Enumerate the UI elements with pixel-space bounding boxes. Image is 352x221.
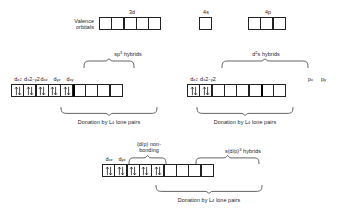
electron-pair-icon [14,86,22,96]
row2-left-boxes [11,84,123,97]
d2s-hybrids-label: d2s hybrids [228,50,304,57]
orbital-box-filled[interactable] [60,84,73,97]
donation-caption-row2-left: Donation by L4 lone pairs [56,119,162,127]
donation-caption-row3: Donation by L4 lone pairs [152,197,266,205]
donation-caption-suffix: lone pairs [114,119,140,125]
sdp3-hybrids-label: s(d/p)3 hybrids [208,147,278,154]
valence-4p-boxes [248,17,286,30]
orbital-label-dz2-right: dz2 [187,76,201,84]
orbital-box-filled[interactable] [139,164,152,177]
donation-caption-suffix: lone pairs [214,197,240,203]
electron-pair-icon [141,166,149,176]
orbital-box-hybrid[interactable] [188,164,201,177]
orbital-box-hybrid[interactable] [73,84,86,97]
orbital-label-dx2y2-right: dx2−y2 [200,76,216,84]
orbital-box[interactable] [260,17,273,30]
orbital-label-dyz: dyz [50,76,64,84]
orbital-box-filled[interactable] [127,164,140,177]
orbital-box-hybrid[interactable] [249,84,262,97]
orbital-box-filled[interactable] [199,84,212,97]
set-label-4s: 4s [199,9,213,15]
nonbonding-label: (d/p) non- bonding [127,141,171,154]
set-label-4p: 4p [248,9,288,15]
electron-pair-icon [105,166,113,176]
orbital-label-dyz-row3: dyz [115,156,129,164]
sdp3-hybrids-brace [195,155,261,164]
donation-caption-row2-right: Donation by L4 lone pairs [192,119,298,127]
orbital-label-dxy: dxy [63,76,77,84]
orbital-box-p[interactable] [261,84,274,97]
donation-brace-row2-left [60,107,158,116]
orbital-diagram-figure: Valence orbitals 3d 4s 4p sp3 hybrids dz… [0,0,352,221]
sdp3-hybrids-base: s(d/p) [225,148,239,154]
donation-brace-row2-right [196,107,294,116]
orbital-box[interactable] [136,17,149,30]
orbital-box-filled[interactable] [11,84,24,97]
nonbonding-label-line2: bonding [139,147,159,153]
row2-right-boxes [187,84,286,97]
orbital-label-px: px [304,76,317,84]
valence-3d-boxes [99,17,161,30]
orbital-box[interactable] [124,17,137,30]
electron-pair-icon [154,166,162,176]
electron-pair-icon [117,166,125,176]
orbital-box-hybrid[interactable] [110,84,123,97]
sp3-hybrids-label: sp3 hybrids [88,50,168,57]
orbital-box[interactable] [248,17,261,30]
orbital-box-hybrid[interactable] [212,84,225,97]
row3-boxes [102,164,214,177]
electron-pair-icon [26,86,34,96]
electron-pair-icon [50,86,58,96]
orbital-box-p[interactable] [273,84,286,97]
orbital-box-hybrid[interactable] [164,164,177,177]
orbital-box-filled[interactable] [187,84,200,97]
donation-caption-base: Donation by L [178,197,212,203]
electron-pair-icon [190,86,198,96]
orbital-box-filled[interactable] [36,84,49,97]
orbital-box-hybrid[interactable] [176,164,189,177]
nonbonding-brace [128,155,168,164]
donation-caption-base: Donation by L [214,119,248,125]
orbital-box-filled[interactable] [48,84,61,97]
orbital-box-filled[interactable] [114,164,127,177]
sp3-hybrids-suffix: hybrids [122,51,142,57]
set-label-3d: 3d [99,9,165,15]
orbital-label-py: py [317,76,330,84]
orbital-box-filled[interactable] [102,164,115,177]
donation-brace-row3 [155,185,263,194]
orbital-box[interactable] [199,17,212,30]
orbital-box[interactable] [99,17,112,30]
orbital-box-hybrid[interactable] [224,84,237,97]
electron-pair-icon [129,166,137,176]
electron-pair-icon [38,86,46,96]
d2s-hybrids-suffix: s hybrids [258,51,280,57]
orbital-label-dxz: dxz [37,76,51,84]
d2s-hybrids-brace [221,58,309,68]
donation-caption-base: Donation by L [78,119,112,125]
orbital-box-hybrid[interactable] [97,84,110,97]
sdp3-hybrids-suffix: hybrids [242,148,262,154]
orbital-box[interactable] [111,17,124,30]
electron-pair-icon [63,86,71,96]
orbital-box[interactable] [273,17,286,30]
orbital-box[interactable] [148,17,161,30]
orbital-box-hybrid[interactable] [85,84,98,97]
orbital-box-hybrid[interactable] [236,84,249,97]
orbital-box-hybrid[interactable] [201,164,214,177]
valence-4s-boxes [199,17,212,30]
orbital-label-dz2: dz2 [11,76,25,84]
sp3-hybrids-brace [83,58,135,68]
orbital-box-filled[interactable] [23,84,36,97]
valence-orbitals-label-line2: orbitals [58,24,94,30]
donation-caption-suffix: lone pairs [250,119,276,125]
orbital-label-dxz-row3: dxz [102,156,116,164]
orbital-box-filled[interactable] [151,164,164,177]
electron-pair-icon [202,86,210,96]
nonbonding-label-line1: (d/p) non- [137,141,161,147]
